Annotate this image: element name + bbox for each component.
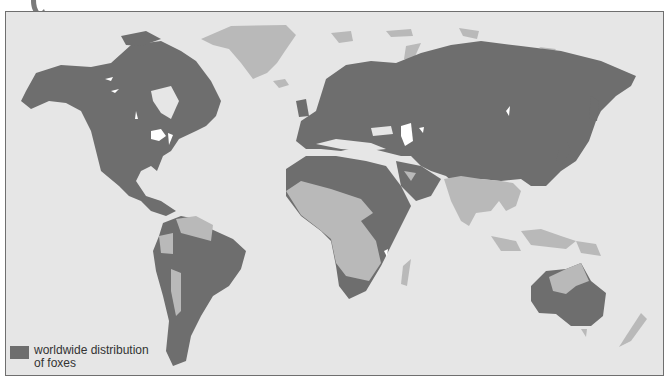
world-map — [5, 11, 664, 376]
legend-label: worldwide distribution of foxes — [34, 344, 149, 370]
legend-swatch — [10, 346, 29, 359]
north-america — [21, 41, 221, 216]
greenland — [201, 25, 296, 79]
legend-line-2: of foxes — [34, 357, 149, 370]
legend: worldwide distribution of foxes — [10, 344, 149, 370]
